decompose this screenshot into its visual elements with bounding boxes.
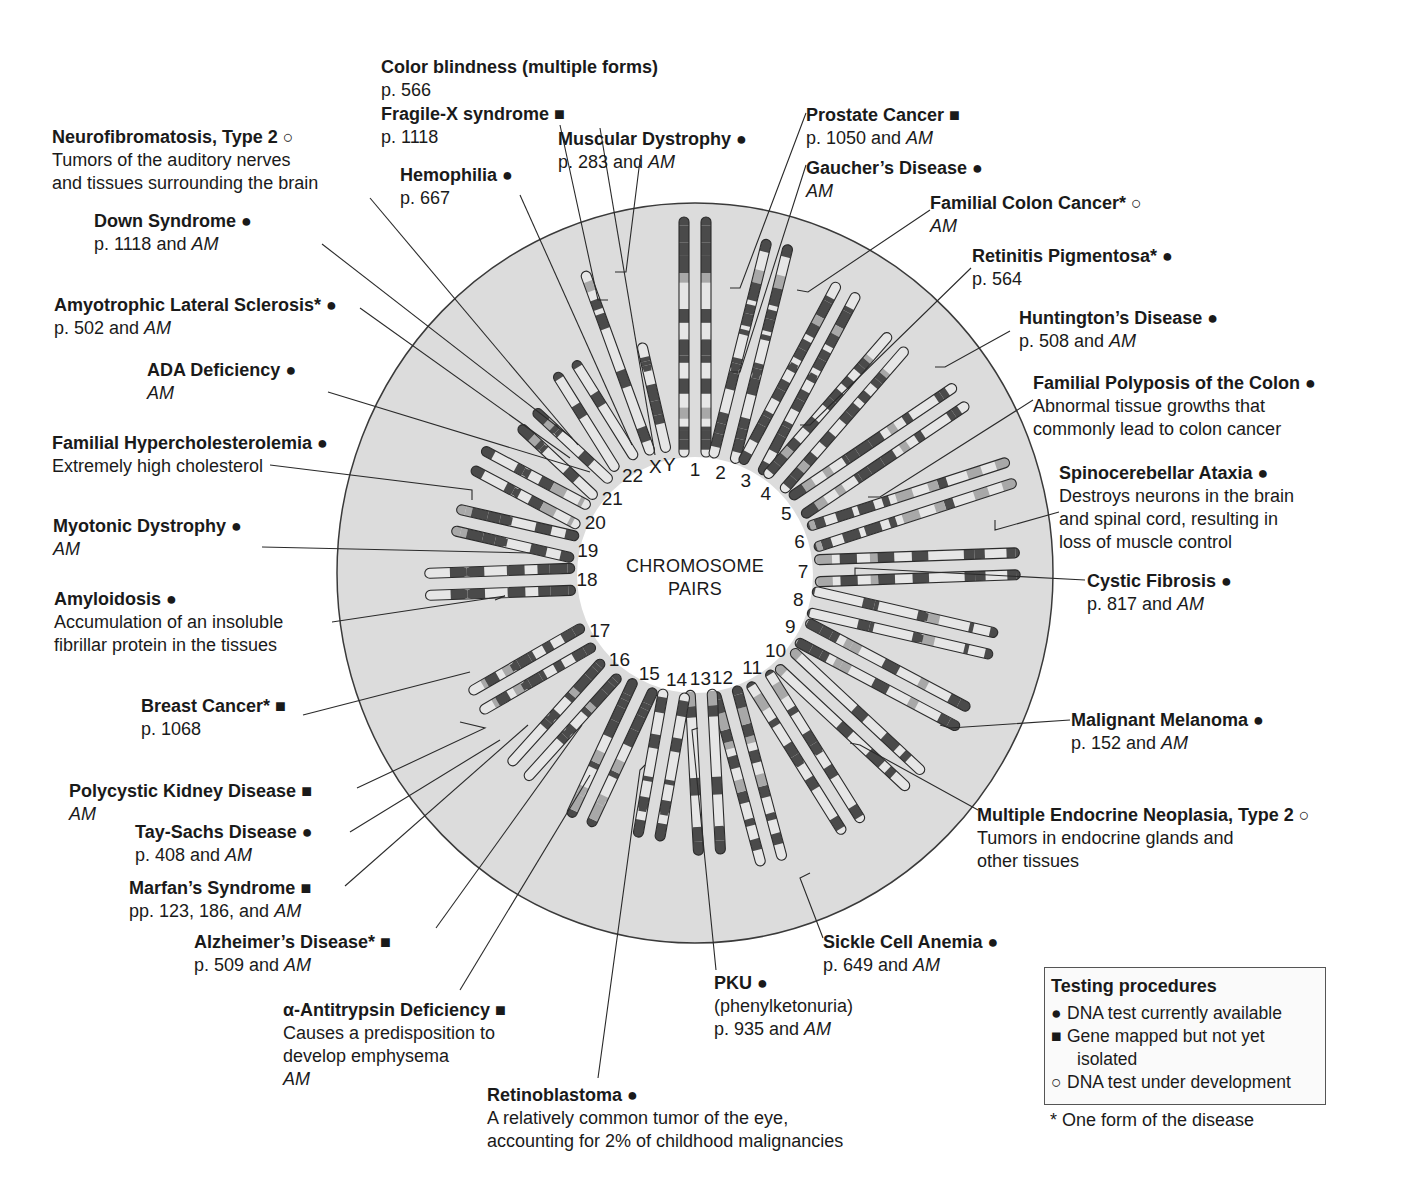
disease-label-spinocerebellar-ataxia: Spinocerebellar Ataxia ●Destroys neurons… xyxy=(1059,462,1294,554)
disease-detail: AM xyxy=(53,538,242,561)
filled-circle-icon: ● xyxy=(622,1085,638,1105)
chromosome-number-5: 5 xyxy=(781,503,792,524)
disease-detail: Causes a predisposition to xyxy=(283,1022,506,1045)
chromosome-number-17: 17 xyxy=(589,620,610,641)
disease-label-retinitis-pigmentosa: Retinitis Pigmentosa* ●p. 564 xyxy=(972,245,1173,291)
disease-title: Spinocerebellar Ataxia ● xyxy=(1059,462,1294,485)
disease-label-fragile-x: Fragile-X syndrome ■p. 1118 xyxy=(381,103,565,149)
filled-square-icon: ■ xyxy=(270,696,286,716)
disease-label-hemophilia: Hemophilia ●p. 667 xyxy=(400,164,513,210)
filled-circle-icon: ● xyxy=(1216,571,1232,591)
filled-circle-icon: ● xyxy=(497,165,513,185)
disease-label-sickle-cell: Sickle Cell Anemia ●p. 649 and AM xyxy=(823,931,998,977)
filled-circle-icon: ● xyxy=(1051,1002,1067,1025)
disease-detail: p. 408 and AM xyxy=(135,844,313,867)
disease-title: ADA Deficiency ● xyxy=(147,359,296,382)
testing-procedures-legend: Testing procedures ●DNA test currently a… xyxy=(1044,967,1326,1105)
chromosome-number-15: 15 xyxy=(639,663,660,684)
disease-detail: p. 935 and AM xyxy=(714,1018,853,1041)
filled-circle-icon: ● xyxy=(967,158,983,178)
disease-label-hypercholesterolemia: Familial Hypercholesterolemia ●Extremely… xyxy=(52,432,328,478)
legend-item-text: DNA test currently available xyxy=(1067,1002,1282,1025)
disease-detail: p. 502 and AM xyxy=(54,317,337,340)
disease-title: Color blindness (multiple forms) xyxy=(381,56,658,79)
filled-square-icon: ■ xyxy=(1051,1025,1067,1048)
disease-detail: and spinal cord, resulting in xyxy=(1059,508,1294,531)
filled-circle-icon: ● xyxy=(236,211,252,231)
disease-detail: p. 1118 and AM xyxy=(94,233,252,256)
disease-detail: fibrillar protein in the tissues xyxy=(54,634,283,657)
disease-label-muscular-dystrophy: Muscular Dystrophy ●p. 283 and AM xyxy=(558,128,747,174)
disease-detail: commonly lead to colon cancer xyxy=(1033,418,1316,441)
disease-label-familial-colon-cancer: Familial Colon Cancer* ○AM xyxy=(930,192,1142,238)
filled-square-icon: ■ xyxy=(375,932,391,952)
chromosome-number-4: 4 xyxy=(761,483,772,504)
disease-label-malignant-melanoma: Malignant Melanoma ●p. 152 and AM xyxy=(1071,709,1264,755)
filled-circle-icon: ● xyxy=(280,360,296,380)
disease-detail: AM xyxy=(147,382,296,405)
disease-detail: p. 1068 xyxy=(141,718,286,741)
chromosome-number-11: 11 xyxy=(742,657,762,678)
filled-circle-icon: ● xyxy=(731,129,747,149)
disease-title: Retinoblastoma ● xyxy=(487,1084,843,1107)
legend-item-text: isolated xyxy=(1067,1048,1137,1071)
disease-label-als: Amyotrophic Lateral Sclerosis* ●p. 502 a… xyxy=(54,294,337,340)
chromosome-number-2: 2 xyxy=(715,462,726,483)
disease-label-marfan: Marfan’s Syndrome ■pp. 123, 186, and AM xyxy=(129,877,311,923)
open-circle-icon: ○ xyxy=(1051,1071,1067,1094)
disease-detail: Extremely high cholesterol xyxy=(52,455,328,478)
disease-label-retinoblastoma: Retinoblastoma ●A relatively common tumo… xyxy=(487,1084,843,1153)
chromosome-number-3: 3 xyxy=(740,470,751,491)
disease-label-cystic-fibrosis: Cystic Fibrosis ●p. 817 and AM xyxy=(1087,570,1232,616)
disease-detail: AM xyxy=(930,215,1142,238)
chromosome-number-10: 10 xyxy=(765,640,786,661)
legend-item-text: DNA test under development xyxy=(1067,1071,1291,1094)
disease-label-antitrypsin: α-Antitrypsin Deficiency ■Causes a predi… xyxy=(283,999,506,1091)
disease-detail: p. 152 and AM xyxy=(1071,732,1264,755)
filled-square-icon: ■ xyxy=(295,878,311,898)
disease-title: Amyotrophic Lateral Sclerosis* ● xyxy=(54,294,337,317)
disease-title: Huntington’s Disease ● xyxy=(1019,307,1218,330)
disease-label-breast-cancer: Breast Cancer* ■p. 1068 xyxy=(141,695,286,741)
spacer xyxy=(1051,1048,1067,1071)
disease-title: Malignant Melanoma ● xyxy=(1071,709,1264,732)
disease-detail: A relatively common tumor of the eye, xyxy=(487,1107,843,1130)
chromosome-number-7: 7 xyxy=(798,561,809,582)
disease-title: PKU ● xyxy=(714,972,853,995)
chromosome-number-22: 22 xyxy=(622,465,643,486)
chromosome-number-1: 1 xyxy=(690,459,701,480)
chromosome-number-16: 16 xyxy=(609,649,630,670)
filled-circle-icon: ● xyxy=(1252,463,1268,483)
disease-title: Breast Cancer* ■ xyxy=(141,695,286,718)
disease-detail: p. 566 xyxy=(381,79,658,102)
filled-circle-icon: ● xyxy=(752,973,768,993)
filled-circle-icon: ● xyxy=(982,932,998,952)
filled-square-icon: ■ xyxy=(549,104,565,124)
disease-title: Alzheimer’s Disease* ■ xyxy=(194,931,391,954)
disease-title: Amyloidosis ● xyxy=(54,588,283,611)
filled-square-icon: ■ xyxy=(944,105,960,125)
legend-item-mapped: ■Gene mapped but not yet xyxy=(1051,1025,1319,1048)
disease-label-amyloidosis: Amyloidosis ●Accumulation of an insolubl… xyxy=(54,588,283,657)
chromosome-number-9: 9 xyxy=(785,616,796,637)
disease-title: Marfan’s Syndrome ■ xyxy=(129,877,311,900)
disease-detail: Destroys neurons in the brain xyxy=(1059,485,1294,508)
disease-title: Fragile-X syndrome ■ xyxy=(381,103,565,126)
disease-label-polycystic-kidney: Polycystic Kidney Disease ■AM xyxy=(69,780,312,826)
disease-title: Multiple Endocrine Neoplasia, Type 2 ○ xyxy=(977,804,1310,827)
disease-title: Muscular Dystrophy ● xyxy=(558,128,747,151)
filled-circle-icon: ● xyxy=(1202,308,1218,328)
disease-label-ada-deficiency: ADA Deficiency ●AM xyxy=(147,359,296,405)
chromosome-number-6: 6 xyxy=(794,531,805,552)
disease-detail: p. 1118 xyxy=(381,126,565,149)
footnote: * One form of the disease xyxy=(1050,1109,1254,1132)
disease-detail: p. 1050 and AM xyxy=(806,127,960,150)
disease-detail: p. 509 and AM xyxy=(194,954,391,977)
chromosome-number-12: 12 xyxy=(712,667,733,688)
filled-square-icon: ■ xyxy=(490,1000,506,1020)
filled-circle-icon: ● xyxy=(321,295,337,315)
filled-circle-icon: ● xyxy=(1300,373,1316,393)
chromosome-number-Y: Y xyxy=(663,454,676,475)
disease-detail: and tissues surrounding the brain xyxy=(52,172,318,195)
filled-circle-icon: ● xyxy=(226,516,242,536)
